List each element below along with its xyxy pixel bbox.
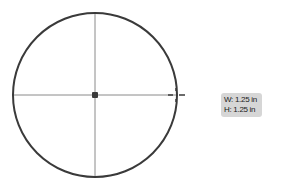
width-label: W: 1.25 in — [224, 95, 259, 105]
dimension-tooltip: W: 1.25 in H: 1.25 in — [221, 93, 262, 117]
height-label: H: 1.25 in — [224, 105, 259, 115]
center-handle[interactable] — [92, 92, 98, 98]
